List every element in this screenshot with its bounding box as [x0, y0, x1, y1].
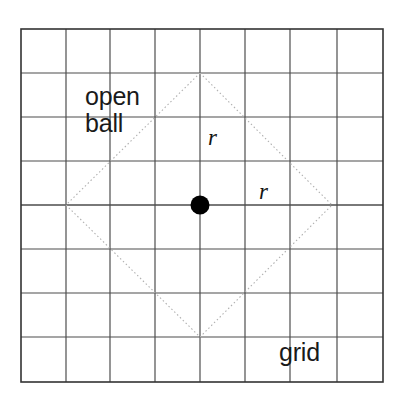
center-point	[191, 196, 210, 215]
radius-label-horizontal: r	[259, 180, 268, 205]
grid-label: grid	[279, 339, 320, 366]
figure-root: openball grid r r	[0, 0, 400, 403]
open-ball-label-line1: open	[85, 82, 140, 110]
radius-label-vertical: r	[208, 126, 217, 151]
open-ball-label-line2: ball	[85, 109, 123, 137]
open-ball-grid-diagram	[0, 0, 400, 403]
open-ball-label: openball	[85, 83, 140, 137]
